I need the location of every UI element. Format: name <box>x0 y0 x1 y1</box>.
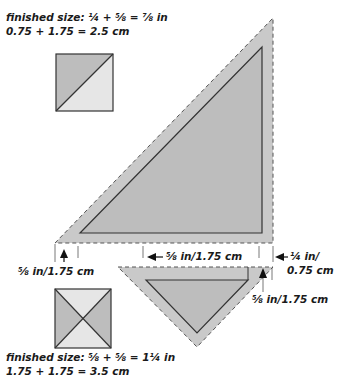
small-triangle-template <box>118 267 273 347</box>
diagram-canvas <box>0 0 342 381</box>
right-seam-label-line1: ¼ in/ <box>290 250 319 263</box>
arrow-up-icon <box>60 249 68 258</box>
bottom-finished-size-line2: 1.75 + 1.75 = 3.5 cm <box>6 365 129 378</box>
middle-seam-label: ⅝ in/1.75 cm <box>166 250 242 263</box>
top-finished-size-line2: 0.75 + 1.75 = 2.5 cm <box>6 25 129 38</box>
arrow-left-icon <box>275 253 284 261</box>
top-finished-size-line1: finished size: ¼ + ⅝ = ⅞ in <box>6 11 168 24</box>
quarter-square-triangle-unit <box>55 289 111 348</box>
small-triangle-seam-label: ⅝ in/1.75 cm <box>252 293 328 306</box>
arrow-left-icon <box>147 253 156 261</box>
bottom-finished-size-line1: finished size: ⅝ + ⅝ = 1¼ in <box>6 351 175 364</box>
large-triangle-template <box>55 18 273 243</box>
half-square-triangle-unit <box>56 54 113 111</box>
left-seam-label: ⅝ in/1.75 cm <box>18 265 94 278</box>
right-seam-label-line2: 0.75 cm <box>287 264 334 277</box>
